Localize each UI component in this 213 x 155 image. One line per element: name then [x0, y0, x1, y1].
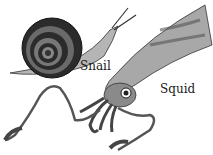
snail-and-squid-drawing [0, 0, 213, 155]
snail-illustration [10, 8, 136, 78]
squid-label: Squid [160, 82, 195, 96]
snail-label: Snail [80, 59, 111, 73]
illustration-canvas: Snail Squid [0, 0, 213, 155]
